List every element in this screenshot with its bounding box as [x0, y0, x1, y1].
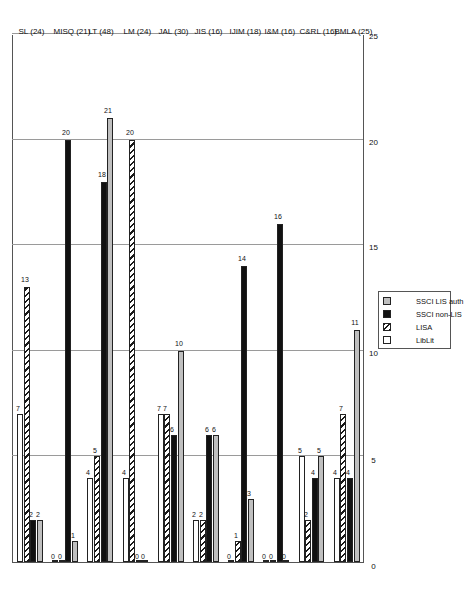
bar-group: 47411 — [330, 34, 362, 562]
bar-ssci-lis-auth — [178, 351, 184, 562]
category-tick-label: I&M (16) — [265, 27, 296, 36]
bar-group: 451821 — [83, 34, 115, 562]
bar-value-label: 2 — [191, 513, 197, 517]
bar-value-label: 20 — [63, 129, 69, 137]
bar-ssci-non-lis — [136, 560, 142, 562]
category-tick-label: C&RL (16) — [300, 27, 338, 36]
bar-value-label: 11 — [352, 319, 358, 326]
legend-item: LISA — [383, 323, 446, 331]
bar-value-label: 18 — [99, 171, 105, 179]
bar-value-label: 16 — [275, 213, 281, 221]
category-tick-label: BMLA (25) — [335, 27, 373, 36]
legend-item: LibLit — [383, 336, 446, 344]
bar-value-label: 0 — [134, 555, 140, 559]
category-tick-label: MISQ (21) — [53, 27, 90, 36]
bar-value-label: 20 — [127, 129, 133, 137]
category-tick-label: JIS (16) — [194, 27, 222, 36]
bar-value-label: 0 — [50, 555, 56, 559]
bar-ssci-lis-auth — [283, 560, 289, 562]
bar-value-label: 1 — [233, 534, 239, 538]
bar-ssci-non-lis — [206, 435, 212, 562]
bar-lisa — [129, 140, 135, 562]
bar-group: 01143 — [224, 34, 256, 562]
bar-ssci-non-lis — [30, 520, 36, 562]
bar-value-label: 6 — [169, 428, 175, 432]
bar-liblit — [158, 414, 164, 562]
bar-ssci-non-lis — [101, 182, 107, 562]
bar-ssci-lis-auth — [318, 456, 324, 562]
bar-value-label: 4 — [310, 471, 316, 475]
bar-value-label: 5 — [297, 450, 303, 454]
bar-lisa — [59, 560, 65, 562]
bar-value-label: 4 — [121, 471, 127, 475]
hatched-square-swatch — [383, 323, 391, 331]
bar-group: 2266 — [189, 34, 221, 562]
bar-value-label: 3 — [246, 492, 252, 496]
bar-group: 00201 — [48, 34, 80, 562]
bar-value-label: 0 — [57, 555, 63, 559]
bar-value-label: 10 — [176, 340, 182, 348]
bar-group: 42000 — [119, 34, 151, 562]
bar-value-label: 6 — [204, 428, 210, 432]
value-tick-label: 15 — [369, 243, 378, 252]
bar-lisa — [200, 520, 206, 562]
bar-value-label: 2 — [28, 513, 34, 517]
bar-liblit — [299, 456, 305, 562]
value-tick-label: 5 — [371, 457, 375, 466]
category-tick-label: SL (24) — [18, 27, 44, 36]
bar-group: 71322 — [13, 34, 45, 562]
bar-value-label: 0 — [140, 555, 146, 559]
bar-value-label: 21 — [105, 108, 111, 116]
category-tick-label: JAL (30) — [159, 27, 189, 36]
value-tick-label: 0 — [371, 562, 375, 571]
bar-ssci-lis-auth — [107, 118, 113, 562]
bar-lisa — [164, 414, 170, 562]
bar-lisa — [305, 520, 311, 562]
bar-value-label: 2 — [35, 513, 41, 517]
bar-ssci-lis-auth — [354, 330, 360, 562]
bar-ssci-lis-auth — [213, 435, 219, 562]
black-square-swatch — [383, 310, 391, 318]
legend-item: SSCI LIS auth — [383, 297, 446, 305]
open-square-swatch — [383, 336, 391, 344]
bar-liblit — [17, 414, 23, 562]
legend-label: SSCI LIS auth — [416, 275, 424, 327]
legend-item: SSCI non-LIS — [383, 310, 446, 318]
bar-value-label: 0 — [261, 555, 267, 559]
bar-lisa — [340, 414, 346, 562]
bar-value-label: 7 — [156, 407, 162, 411]
bar-liblit — [87, 478, 93, 562]
bar-ssci-non-lis — [171, 435, 177, 562]
bar-value-label: 0 — [268, 555, 274, 559]
bar-lisa — [235, 541, 241, 562]
bar-chart: 4741152450016001143226677610420004518210… — [12, 35, 364, 563]
bar-liblit — [334, 478, 340, 562]
bar-liblit — [193, 520, 199, 562]
category-tick-label: IJIM (18) — [229, 27, 261, 36]
bar-liblit — [228, 560, 234, 562]
bar-liblit — [123, 478, 129, 562]
bar-value-label: 0 — [281, 555, 287, 559]
bar-value-label: 7 — [162, 407, 168, 411]
plot-area: 4741152450016001143226677610420004518210… — [12, 35, 364, 563]
value-tick-label: 10 — [369, 349, 378, 358]
bar-value-label: 6 — [211, 428, 217, 432]
bar-value-label: 7 — [338, 407, 344, 411]
bar-value-label: 1 — [70, 534, 76, 538]
bar-value-label: 4 — [85, 471, 91, 475]
bar-value-label: 4 — [345, 471, 351, 475]
bar-value-label: 14 — [239, 256, 245, 264]
bar-liblit — [263, 560, 269, 562]
bar-value-label: 2 — [303, 513, 309, 517]
category-axis: BMLA (25)C&RL (16)I&M (16)IJIM (18)JIS (… — [12, 1, 364, 31]
bar-value-label: 13 — [22, 277, 28, 285]
gray-square-swatch — [383, 297, 391, 305]
bar-ssci-non-lis — [277, 224, 283, 562]
bar-group: 00160 — [259, 34, 291, 562]
bar-liblit — [52, 560, 58, 562]
bar-value-label: 7 — [15, 407, 21, 411]
bar-lisa — [24, 287, 30, 562]
category-tick-label: LT (48) — [89, 27, 114, 36]
value-tick-label: 20 — [369, 138, 378, 147]
